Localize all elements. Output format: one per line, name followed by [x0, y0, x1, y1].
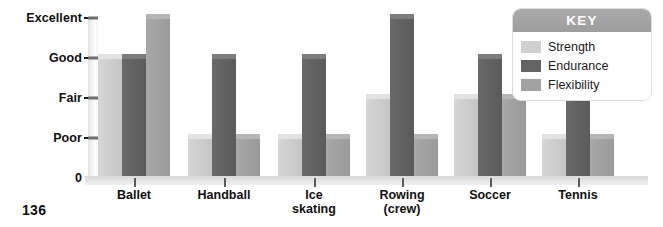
y-strip-tick [88, 97, 98, 100]
bar-top-face [366, 94, 390, 99]
bar-top-face [212, 54, 236, 59]
strength-swatch [521, 41, 541, 53]
x-tick-mark [224, 178, 226, 187]
y-tick-label-0: 0 [75, 171, 82, 185]
bar-face [366, 98, 390, 178]
legend-title: KEY [513, 9, 651, 32]
bar-top-face [414, 134, 438, 139]
chart-page: 0PoorFairGoodExcellent KEY StrengthEndur… [0, 0, 663, 227]
bar-face [146, 18, 170, 178]
bar-group [188, 18, 260, 178]
legend-item-label: Strength [548, 40, 595, 54]
legend-item-label: Endurance [548, 59, 608, 73]
bar-top-face [236, 134, 260, 139]
chart-legend: KEY StrengthEnduranceFlexibility [512, 8, 652, 101]
bar-group [98, 18, 170, 178]
bar-top-face [590, 134, 614, 139]
bar-group-bars [98, 18, 170, 178]
bar-face [542, 138, 566, 178]
x-axis-baseline [85, 176, 648, 185]
bar-flexibility-rowing--crew-[interactable] [414, 138, 438, 178]
x-tick-mark [402, 178, 404, 187]
bar-face [390, 18, 414, 178]
y-axis-labels: 0PoorFairGoodExcellent [0, 0, 82, 190]
bar-face [278, 138, 302, 178]
bar-strength-rowing--crew-[interactable] [366, 98, 390, 178]
y-strip-tick [88, 137, 98, 140]
bar-face [212, 58, 236, 178]
y-strip-tick [88, 17, 98, 20]
x-tick-mark [490, 178, 492, 187]
bar-strength-tennis[interactable] [542, 138, 566, 178]
y-tick-label-good: Good [49, 51, 82, 65]
page-number: 136 [22, 202, 46, 218]
bar-flexibility-tennis[interactable] [590, 138, 614, 178]
bar-face [414, 138, 438, 178]
x-axis-label-tennis: Tennis [524, 188, 632, 202]
endurance-swatch [521, 60, 541, 72]
bar-group-bars [278, 18, 350, 178]
bar-top-face [326, 134, 350, 139]
bar-top-face [146, 14, 170, 19]
bar-top-face [542, 134, 566, 139]
y-strip-tick [88, 57, 98, 60]
x-tick-mark [314, 178, 316, 187]
bar-endurance-ballet[interactable] [122, 58, 146, 178]
bar-face [98, 58, 122, 178]
bar-strength-ice-skating[interactable] [278, 138, 302, 178]
bar-face [302, 58, 326, 178]
legend-item-flexibility[interactable]: Flexibility [521, 75, 651, 94]
y-tick-label-poor: Poor [53, 131, 82, 145]
legend-items: StrengthEnduranceFlexibility [513, 32, 651, 100]
bar-top-face [278, 134, 302, 139]
bar-group [278, 18, 350, 178]
bar-top-face [302, 54, 326, 59]
bar-endurance-ice-skating[interactable] [302, 58, 326, 178]
x-tick-mark [134, 178, 136, 187]
bar-strength-soccer[interactable] [454, 98, 478, 178]
bar-top-face [98, 54, 122, 59]
bar-flexibility-handball[interactable] [236, 138, 260, 178]
bar-endurance-soccer[interactable] [478, 58, 502, 178]
bar-face [122, 58, 146, 178]
bar-face [188, 138, 212, 178]
x-tick-mark [578, 178, 580, 187]
legend-item-label: Flexibility [548, 78, 599, 92]
bar-endurance-tennis[interactable] [566, 98, 590, 178]
bar-face [590, 138, 614, 178]
bar-top-face [122, 54, 146, 59]
bar-face [236, 138, 260, 178]
y-tick-label-fair: Fair [59, 91, 82, 105]
bar-group-bars [188, 18, 260, 178]
bar-flexibility-soccer[interactable] [502, 98, 526, 178]
bar-top-face [454, 94, 478, 99]
bar-face [454, 98, 478, 178]
bar-face [326, 138, 350, 178]
bar-endurance-rowing--crew-[interactable] [390, 18, 414, 178]
bar-group [366, 18, 438, 178]
bar-flexibility-ice-skating[interactable] [326, 138, 350, 178]
bar-top-face [478, 54, 502, 59]
bar-group-bars [366, 18, 438, 178]
legend-item-endurance[interactable]: Endurance [521, 56, 651, 75]
bar-face [478, 58, 502, 178]
bar-face [502, 98, 526, 178]
bar-strength-handball[interactable] [188, 138, 212, 178]
y-tick-label-excellent: Excellent [26, 11, 82, 25]
legend-item-strength[interactable]: Strength [521, 37, 651, 56]
bar-top-face [188, 134, 212, 139]
bar-top-face [390, 14, 414, 19]
bar-flexibility-ballet[interactable] [146, 18, 170, 178]
bar-strength-ballet[interactable] [98, 58, 122, 178]
bar-face [566, 98, 590, 178]
flexibility-swatch [521, 79, 541, 91]
bar-endurance-handball[interactable] [212, 58, 236, 178]
